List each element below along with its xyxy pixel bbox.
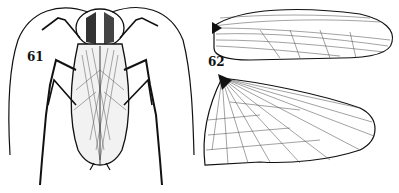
left-foreleg (42, 18, 80, 38)
right-midleg (124, 60, 162, 185)
left-midleg (40, 60, 76, 185)
figure-61-label: 61 (27, 50, 44, 64)
cockroach-figure (9, 8, 194, 185)
right-foreleg (120, 18, 158, 38)
figure-62-label: 62 (208, 55, 225, 69)
illustration-canvas (0, 0, 399, 193)
pronotum (76, 9, 124, 47)
wings-figure (204, 10, 392, 165)
